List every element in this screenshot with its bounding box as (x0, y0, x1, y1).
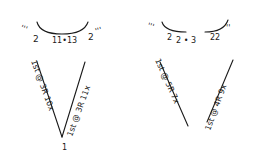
left-bottom-label: 1 (62, 143, 67, 152)
right-top-left-num: 2 (167, 33, 172, 42)
right-top-arc-right (205, 20, 228, 32)
right-top-arc-left (162, 22, 186, 32)
left-top-arc (37, 22, 88, 34)
left-top-right-ticks: ''' (94, 26, 103, 36)
left-top-left-num: 2 (33, 34, 39, 44)
left-top-center: 11•13 (52, 36, 77, 45)
right-diagram: ''' 2 2 • 3 22 '' 1st @ 5R 7x 1st @ 4R 9… (146, 20, 233, 132)
right-top-right-num: 22 (210, 33, 220, 42)
knitting-diagrams: ''' 2 11•13 2 ''' 1st @ 3R 10x 1st @ 3R … (0, 0, 255, 157)
right-arm-left-label: 1st @ 5R 7x (153, 57, 181, 105)
left-top-left-ticks: ''' (19, 23, 28, 34)
right-top-left-ticks: ''' (146, 21, 155, 31)
right-top-right-ticks: '' (226, 24, 230, 33)
left-top-right-num: 2 (88, 32, 94, 42)
right-top-center: 2 • 3 (176, 36, 196, 45)
left-arm-left-label: 1st @ 3R 10x (29, 59, 56, 113)
left-diagram: ''' 2 11•13 2 ''' 1st @ 3R 10x 1st @ 3R … (19, 22, 103, 152)
right-arm-right-label: 1st @ 4R 9x (203, 83, 228, 132)
